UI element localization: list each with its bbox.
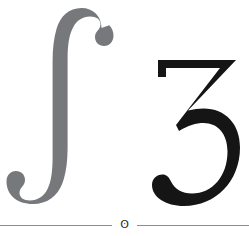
divider-line-left: [0, 225, 112, 226]
circled-dot-ornament: ʘ: [112, 219, 137, 230]
specimen-page: ʘ: [0, 0, 249, 236]
integral-sign-icon: [6, 7, 118, 211]
glyph-stage: [0, 0, 249, 214]
numeral-three-glyph: [148, 57, 244, 209]
integral-sign-glyph: [6, 7, 118, 211]
numeral-three-icon: [148, 57, 244, 209]
footer-divider: ʘ: [0, 214, 249, 236]
divider-line-right: [137, 225, 249, 226]
